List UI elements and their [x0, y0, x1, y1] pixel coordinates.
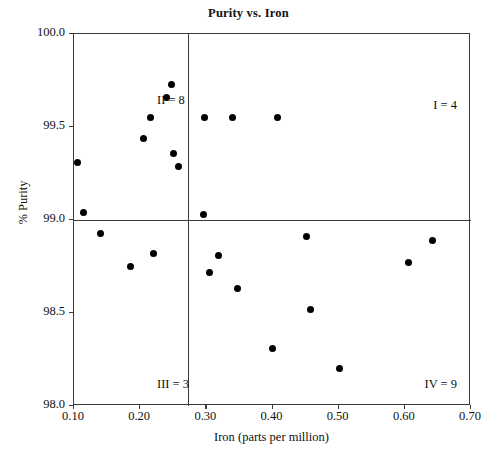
x-axis-tick-mark	[205, 405, 206, 409]
data-point	[201, 114, 208, 121]
x-axis-tick-mark	[139, 405, 140, 409]
x-axis-tick-label: 0.50	[315, 409, 361, 424]
x-axis-title: Iron (parts per million)	[73, 430, 470, 445]
data-point	[405, 259, 412, 266]
x-axis-tick-mark	[73, 405, 74, 409]
data-point	[97, 230, 104, 237]
data-point	[200, 211, 207, 218]
data-point	[274, 114, 281, 121]
x-axis-tick-mark	[338, 405, 339, 409]
x-axis-tick-label: 0.40	[249, 409, 295, 424]
data-point	[170, 150, 177, 157]
data-point	[127, 263, 134, 270]
chart-title: Purity vs. Iron	[0, 6, 497, 21]
x-axis-tick-label: 0.30	[182, 409, 228, 424]
y-axis-tick-label: 98.5	[13, 304, 65, 319]
data-point	[80, 209, 87, 216]
y-axis-tick-mark	[69, 405, 73, 406]
y-axis-tick-label: 99.5	[13, 118, 65, 133]
data-point	[269, 345, 276, 352]
y-axis-tick-mark	[69, 312, 73, 313]
data-point	[140, 135, 147, 142]
data-point	[336, 365, 343, 372]
x-axis-tick-mark	[272, 405, 273, 409]
data-point	[168, 81, 175, 88]
y-axis-tick-mark	[69, 219, 73, 220]
data-point	[307, 306, 314, 313]
quadrant-3-label: III = 3	[157, 377, 189, 392]
y-axis-tick-label: 98.0	[13, 397, 65, 412]
quadrant-2-label: II = 8	[157, 93, 185, 108]
x-axis-tick-label: 0.20	[116, 409, 162, 424]
y-axis-title: % Purity	[16, 143, 31, 263]
x-axis-tick-mark	[470, 405, 471, 409]
data-point	[229, 114, 236, 121]
data-point	[150, 250, 157, 257]
y-axis-tick-mark	[69, 126, 73, 127]
data-point	[215, 252, 222, 259]
x-axis-tick-label: 0.60	[381, 409, 427, 424]
quadrant-4-label: IV = 9	[424, 377, 457, 392]
scatter-plot-figure: Purity vs. Iron II = 8 I = 4 III = 3 IV …	[0, 0, 497, 461]
data-point	[429, 237, 436, 244]
plot-area: II = 8 I = 4 III = 3 IV = 9	[73, 33, 470, 405]
y-axis-tick-label: 100.0	[13, 25, 65, 40]
data-point	[206, 269, 213, 276]
x-axis-tick-label: 0.70	[447, 409, 493, 424]
quadrant-1-label: I = 4	[433, 98, 457, 113]
x-axis-tick-mark	[404, 405, 405, 409]
data-point	[147, 114, 154, 121]
data-point	[175, 163, 182, 170]
data-point	[303, 233, 310, 240]
data-point	[74, 159, 81, 166]
data-point	[234, 285, 241, 292]
y-axis-tick-mark	[69, 33, 73, 34]
quadrant-divider-horizontal	[74, 220, 471, 221]
